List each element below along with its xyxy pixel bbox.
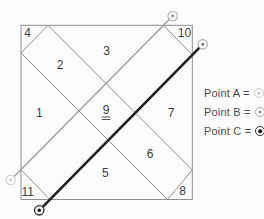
region-label-5: 5 — [102, 166, 109, 180]
region-label-9: 9 — [103, 103, 110, 117]
legend-label-point-a: Point A = — [204, 87, 250, 99]
point-a-dot-icon — [257, 92, 260, 95]
point-b-dot-icon — [258, 111, 261, 114]
point-marker-right-icon — [198, 40, 207, 49]
point-c-dot-icon — [259, 129, 263, 133]
region-label-7: 7 — [168, 106, 175, 120]
point-c-icon — [255, 126, 264, 136]
legend-item-point-c: Point C = — [204, 125, 264, 137]
legend-item-point-a: Point A = — [204, 87, 264, 99]
region-label-2: 2 — [57, 58, 64, 72]
region-label-11: 11 — [21, 185, 34, 199]
band-line-upper — [48, 25, 192, 170]
region-label-10: 10 — [178, 26, 192, 40]
point-a-icon — [254, 88, 264, 98]
region-label-1: 1 — [36, 106, 43, 120]
legend-item-point-b: Point B = — [204, 106, 264, 118]
region-label-6: 6 — [147, 147, 154, 161]
region-label-4: 4 — [24, 26, 31, 40]
legend-label-point-c: Point C = — [204, 125, 251, 137]
diagram-page: 1 2 3 4 5 6 7 8 9 10 11 Point A = Point … — [0, 0, 264, 219]
region-label-3: 3 — [103, 44, 110, 58]
point-marker-bottom-left-icon — [6, 175, 15, 184]
legend-label-point-b: Point B = — [204, 106, 251, 118]
point-marker-top-icon — [168, 11, 177, 20]
point-legend: Point A = Point B = Point C = — [204, 87, 264, 137]
region-label-8: 8 — [179, 184, 186, 198]
band-line-lower — [21, 53, 168, 200]
point-marker-bottom-icon — [35, 206, 44, 215]
point-b-icon — [255, 107, 264, 117]
